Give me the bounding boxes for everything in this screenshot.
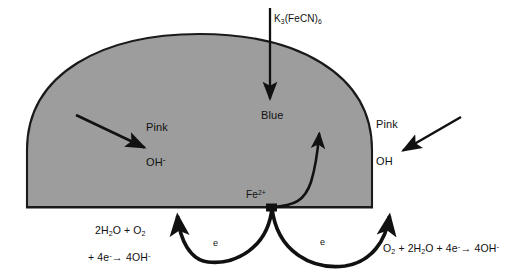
electron-left-label: e: [213, 239, 218, 248]
electron-flow-left-arrow: [178, 208, 273, 262]
blue-zone-label: Blue: [261, 110, 283, 121]
right-halfreaction: O2 + 2H2O + 4e-→ 4OH-: [383, 243, 499, 256]
ferrous-ion-label: Fe2+: [246, 190, 266, 200]
diagram-vector-layer: [0, 0, 520, 278]
electrolyte-droplet-shape: [27, 34, 372, 207]
anode-contact-node: [266, 204, 277, 212]
right-hydroxide-label: OH: [376, 156, 393, 167]
electron-right-label: e: [320, 238, 325, 247]
left-halfreaction-line2: + 4e-→ 4OH-: [88, 252, 151, 263]
right-pink-zone-label: Pink: [376, 119, 398, 130]
right-hydroxide-arrow: [403, 117, 461, 151]
left-pink-zone-label: Pink: [146, 122, 168, 133]
left-halfreaction-line1: 2H2O + O2: [95, 225, 146, 238]
diagram-canvas: K3(FeCN)6 Blue Pink OH- Pink OH Fe2+ e e…: [0, 0, 520, 278]
left-hydroxide-label: OH-: [146, 157, 166, 168]
ferricyanide-label: K3(FeCN)6: [274, 14, 322, 26]
electron-flow-right-arrow: [272, 208, 390, 267]
